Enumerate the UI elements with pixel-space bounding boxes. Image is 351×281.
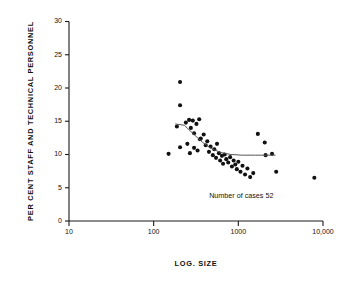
x-tick-label: 10,000: [312, 228, 334, 235]
data-point: [187, 118, 191, 122]
data-point: [218, 158, 222, 162]
data-point: [197, 117, 201, 121]
x-tick-label: 1000: [231, 228, 247, 235]
y-tick-label: 30: [54, 17, 62, 24]
x-tick-label: 100: [148, 228, 160, 235]
annotation-number-of-cases: Number of cases 52: [209, 191, 273, 200]
data-point: [228, 155, 232, 159]
x-axis-title: LOG. SIZE: [175, 259, 218, 268]
data-point: [167, 152, 171, 156]
data-point: [178, 103, 182, 107]
data-point: [191, 119, 195, 123]
data-point: [192, 146, 196, 150]
data-point: [236, 160, 240, 164]
y-tick-label: 0: [58, 217, 62, 224]
data-point: [194, 122, 198, 126]
data-point: [226, 160, 230, 164]
data-point: [214, 156, 218, 160]
data-point: [251, 171, 255, 175]
data-point: [188, 151, 192, 155]
data-point: [205, 139, 209, 143]
data-point: [235, 167, 239, 171]
x-tick-label: 10: [65, 228, 73, 235]
data-point: [240, 164, 244, 168]
y-tick-label: 25: [54, 51, 62, 58]
data-point: [185, 142, 189, 146]
data-point: [184, 121, 188, 125]
data-point: [202, 133, 206, 137]
data-point: [238, 170, 242, 174]
data-point: [243, 172, 247, 176]
y-tick-label: 10: [54, 150, 62, 157]
data-point: [178, 145, 182, 149]
data-point: [245, 166, 249, 170]
data-point: [215, 142, 219, 146]
y-tick-label: 5: [58, 184, 62, 191]
data-point: [178, 80, 182, 84]
y-tick-label: 15: [54, 117, 62, 124]
chart-svg: 051015202530 10100100010,000 Number of c…: [0, 0, 351, 281]
data-point: [175, 125, 179, 129]
chart-background: [0, 0, 351, 281]
data-point: [256, 132, 260, 136]
data-point: [312, 176, 316, 180]
data-point: [248, 175, 252, 179]
data-point: [196, 148, 200, 152]
y-tick-label: 20: [54, 84, 62, 91]
data-point: [232, 158, 236, 162]
data-point: [189, 126, 193, 130]
data-point: [221, 162, 225, 166]
scatter-chart: 051015202530 10100100010,000 Number of c…: [0, 0, 351, 281]
data-point: [207, 150, 211, 154]
data-point: [211, 153, 215, 157]
y-axis-title: PER CENT STAFF AND TECHNICAL PERSONNEL: [26, 21, 35, 221]
data-point: [274, 170, 278, 174]
data-point: [263, 140, 267, 144]
